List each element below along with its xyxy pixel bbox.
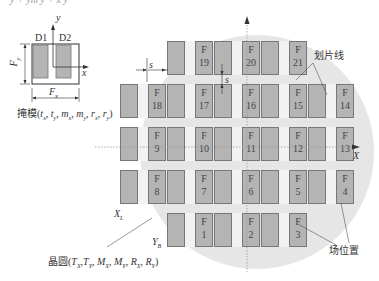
wafer-axis-x: X [353,150,359,161]
label-yb: YB [152,236,161,249]
mask-axis-x: x [82,67,86,78]
die-label-d2: D2 [59,32,71,43]
wafer-caption: 晶圆(TX,TY, MX, MY, RX, RY) [48,253,158,269]
spacing-label-horizontal: s [149,59,153,70]
mask-caption: 掩模(tx, ty, mx, my, rx, ry) [17,105,113,121]
scribe-line-callout: 划片线 [314,47,344,62]
mask-dim-fy: Fy [8,57,22,66]
label-xl: XL [114,208,123,221]
diagram-lines [0,0,379,281]
field-position-callout: 场位置 [329,242,359,257]
spacing-label-vertical: s [225,74,229,85]
die-label-d1: D1 [35,32,47,43]
mask-dim-fx: Fx [49,86,58,100]
mask-axis-y: y [56,12,60,23]
